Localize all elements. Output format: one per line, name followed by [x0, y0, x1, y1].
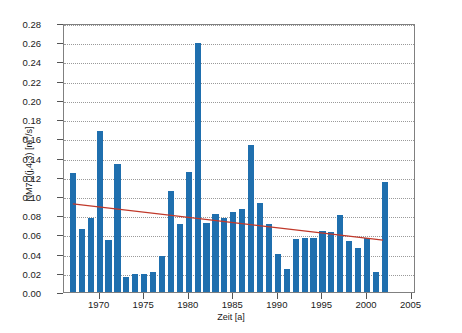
y-tick-mark-0.10 [57, 197, 63, 198]
y-tick-mark-0.24 [57, 62, 63, 63]
y-tick-mark-0.04 [57, 255, 63, 256]
x-tick-label-1985: 1985 [212, 299, 252, 310]
x-tick-mark-1990 [277, 293, 278, 299]
y-tick-mark-0.22 [57, 82, 63, 83]
x-tick-label-1975: 1975 [123, 299, 163, 310]
trend-line-segment [73, 204, 383, 240]
x-tick-label-1980: 1980 [168, 299, 208, 310]
x-tick-mark-2000 [366, 293, 367, 299]
x-axis-title: Zeit [a] [0, 312, 462, 322]
y-tick-mark-0.16 [57, 139, 63, 140]
x-tick-label-2000: 2000 [346, 299, 386, 310]
x-tick-mark-1980 [188, 293, 189, 299]
plot-area [63, 24, 415, 293]
y-axis-title-main: NM7Q(j,4,3) [m [24, 140, 34, 202]
x-tick-label-2005: 2005 [391, 299, 431, 310]
y-tick-label-0.26: 0.26 [3, 39, 41, 48]
y-tick-mark-0.18 [57, 120, 63, 121]
y-tick-label-0.02: 0.02 [3, 269, 41, 278]
y-tick-mark-0.12 [57, 178, 63, 179]
chart-container: 0.000.020.040.060.080.100.120.140.160.18… [0, 0, 462, 333]
y-tick-mark-0.06 [57, 235, 63, 236]
x-tick-mark-1975 [143, 293, 144, 299]
trend-line [64, 25, 414, 292]
y-tick-label-0.04: 0.04 [3, 250, 41, 259]
y-axis-title-tail: /s] [24, 127, 34, 137]
x-tick-label-1990: 1990 [257, 299, 297, 310]
x-tick-label-1970: 1970 [79, 299, 119, 310]
x-tick-mark-1985 [232, 293, 233, 299]
y-tick-label-0.28: 0.28 [3, 20, 41, 29]
y-axis-title-exponent: 3 [22, 136, 29, 140]
y-tick-mark-0.26 [57, 43, 63, 44]
y-tick-mark-0.28 [57, 24, 63, 25]
x-tick-mark-1995 [321, 293, 322, 299]
x-tick-label-1995: 1995 [301, 299, 341, 310]
x-tick-mark-1970 [99, 293, 100, 299]
y-tick-mark-0.02 [57, 274, 63, 275]
y-tick-label-0.00: 0.00 [3, 289, 41, 298]
y-tick-mark-0.20 [57, 101, 63, 102]
y-tick-mark-0.08 [57, 216, 63, 217]
y-tick-mark-0.00 [57, 293, 63, 294]
y-tick-mark-0.14 [57, 159, 63, 160]
x-tick-mark-2005 [411, 293, 412, 299]
y-tick-label-0.24: 0.24 [3, 58, 41, 67]
y-axis-title: NM7Q(j,4,3) [m3/s] [22, 84, 34, 244]
